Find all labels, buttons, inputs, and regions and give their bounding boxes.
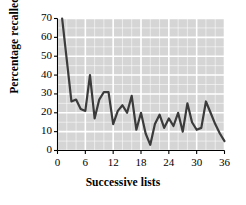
x-tick-label: 12 (101, 156, 125, 168)
y-tick-label: 50 (30, 49, 52, 61)
y-tick-label: 60 (30, 30, 52, 42)
y-tick-label: 40 (30, 68, 52, 80)
x-tick-label: 36 (213, 156, 237, 168)
plot-area: 010203040506070061218243036 (0, 0, 246, 205)
x-tick-label: 30 (185, 156, 209, 168)
chart-figure: Percentage recalled 01020304050607006121… (0, 0, 246, 205)
y-tick-label: 10 (30, 124, 52, 136)
x-tick-label: 0 (46, 156, 70, 168)
y-tick-label: 30 (30, 86, 52, 98)
y-tick-label: 20 (30, 105, 52, 117)
x-tick-label: 6 (73, 156, 97, 168)
y-tick-label: 0 (30, 143, 52, 155)
x-tick-label: 24 (157, 156, 181, 168)
x-axis-label: Successive lists (0, 176, 246, 188)
y-tick-label: 70 (30, 11, 52, 23)
x-tick-label: 18 (129, 156, 153, 168)
